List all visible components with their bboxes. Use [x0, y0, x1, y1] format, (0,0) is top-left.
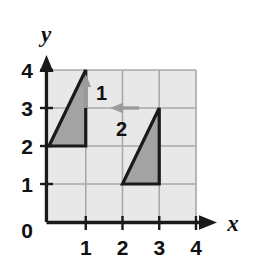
y-axis-label: y — [38, 22, 52, 47]
x-tick-label-4: 4 — [190, 236, 202, 259]
figure-canvas: 4 3 2 1 0 1 2 3 4 y x 1 2 — [0, 0, 254, 269]
x-tick-label-3: 3 — [153, 236, 165, 259]
x-tick-label-1: 1 — [80, 236, 92, 259]
shape-label-2: 2 — [116, 118, 127, 140]
coordinate-grid-figure: 4 3 2 1 0 1 2 3 4 y x 1 2 — [0, 0, 254, 269]
y-tick-label-1: 1 — [21, 173, 33, 196]
y-tick-label-4: 4 — [21, 59, 33, 82]
y-tick-label-2: 2 — [21, 135, 33, 158]
shape-label-1: 1 — [96, 82, 107, 104]
x-tick-label-2: 2 — [117, 236, 129, 259]
y-tick-label-3: 3 — [21, 97, 33, 120]
x-axis-label: x — [226, 211, 239, 236]
origin-label: 0 — [21, 219, 33, 242]
